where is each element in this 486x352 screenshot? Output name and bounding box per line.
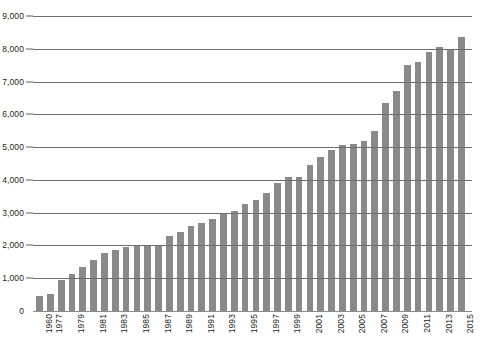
bar (274, 183, 281, 311)
bar (47, 294, 54, 311)
bar (242, 204, 249, 311)
gridline-5000 (33, 147, 472, 148)
x-axis-label: 1981 (98, 314, 108, 333)
gridline-1000 (33, 278, 472, 279)
y-axis-label: 3,000 (2, 208, 24, 218)
x-axis-label: 2013 (444, 314, 454, 333)
y-axis-tick (26, 16, 33, 17)
y-axis-label: 0 (19, 306, 24, 316)
y-axis-tick (26, 212, 33, 213)
y-axis-label: 6,000 (2, 109, 24, 119)
y-axis-label: 9,000 (2, 11, 24, 21)
x-axis-label: 1977 (54, 314, 64, 333)
y-axis-label: 8,000 (2, 44, 24, 54)
bar (79, 267, 86, 311)
y-axis: 01,0002,0003,0004,0005,0006,0007,0008,00… (0, 0, 33, 311)
bar (220, 214, 227, 311)
x-axis-label: 1987 (163, 314, 173, 333)
y-axis-tick (26, 114, 33, 115)
y-axis-label: 7,000 (2, 77, 24, 87)
y-axis-tick (26, 48, 33, 49)
x-axis-label: 2003 (336, 314, 346, 333)
bar (371, 131, 378, 311)
x-axis-label: 1995 (249, 314, 259, 333)
x-axis-label: 1979 (76, 314, 86, 333)
x-axis-label: 1993 (227, 314, 237, 333)
bar (253, 200, 260, 311)
bar (209, 219, 216, 311)
bar (382, 103, 389, 311)
plot-area (33, 16, 472, 311)
x-axis-label: 2001 (314, 314, 324, 333)
bar (263, 193, 270, 311)
bar (231, 211, 238, 311)
gridline-2000 (33, 245, 472, 246)
x-axis-label: 1997 (271, 314, 281, 333)
bar (339, 145, 346, 311)
y-axis-tick (26, 179, 33, 180)
bar-chart: 01,0002,0003,0004,0005,0006,0007,0008,00… (0, 0, 486, 352)
bar (177, 232, 184, 311)
y-axis-label: 2,000 (2, 240, 24, 250)
y-axis-label: 5,000 (2, 142, 24, 152)
bar (101, 253, 108, 311)
bar (90, 260, 97, 311)
bar (112, 250, 119, 311)
bar (415, 62, 422, 311)
bar (188, 226, 195, 311)
gridline-9000 (33, 16, 472, 17)
y-axis-tick (26, 245, 33, 246)
bar (328, 150, 335, 311)
bar (198, 223, 205, 312)
x-axis-label: 2009 (400, 314, 410, 333)
bar (404, 65, 411, 311)
gridline-8000 (33, 49, 472, 50)
x-axis-label: 1999 (292, 314, 302, 333)
y-axis-label: 1,000 (2, 273, 24, 283)
bar (36, 296, 43, 311)
x-axis-label: 2007 (379, 314, 389, 333)
bar (307, 165, 314, 311)
gridline-3000 (33, 213, 472, 214)
bar (350, 144, 357, 311)
x-axis-label: 1985 (141, 314, 151, 333)
x-axis-label: 2015 (465, 314, 475, 333)
y-axis-label: 4,000 (2, 175, 24, 185)
bar (296, 177, 303, 311)
x-axis-label: 1989 (184, 314, 194, 333)
x-axis: 1960197719791981198319851987198919911993… (33, 311, 472, 352)
bar (285, 177, 292, 311)
y-axis-tick (26, 278, 33, 279)
y-axis-tick (26, 147, 33, 148)
bar (58, 280, 65, 311)
y-axis-tick (26, 81, 33, 82)
x-axis-label: 2011 (422, 314, 432, 333)
bar (361, 141, 368, 311)
x-axis-label: 2005 (357, 314, 367, 333)
bars-layer (33, 16, 472, 311)
x-axis-label: 1960 (44, 314, 54, 333)
x-axis-label: 1991 (206, 314, 216, 333)
bar (69, 274, 76, 311)
gridline-7000 (33, 82, 472, 83)
bar (426, 52, 433, 311)
bar (458, 37, 465, 311)
x-axis-label: 1983 (119, 314, 129, 333)
bar (166, 236, 173, 311)
gridline-4000 (33, 180, 472, 181)
gridline-6000 (33, 114, 472, 115)
